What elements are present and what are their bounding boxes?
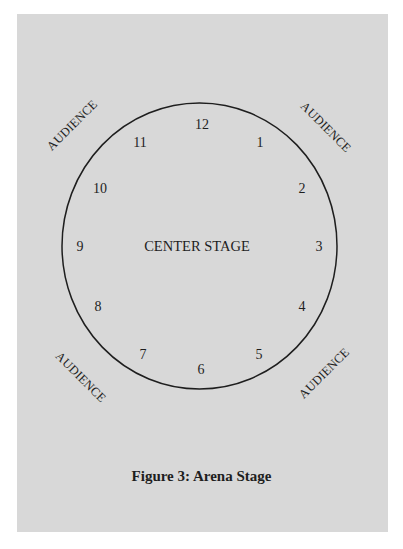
position-9: 9: [77, 239, 84, 254]
position-8: 8: [95, 299, 102, 314]
position-7: 7: [140, 347, 147, 362]
audience-top-right: AUDIENCE: [298, 99, 354, 155]
arena-stage-diagram: CENTER STAGE 12 1 2 3 4 5 6 7 8 9 10 11 …: [0, 0, 403, 549]
position-4: 4: [299, 299, 306, 314]
audience-bottom-left: AUDIENCE: [53, 349, 109, 405]
figure-caption: Figure 3: Arena Stage: [0, 468, 403, 485]
position-3: 3: [316, 239, 323, 254]
position-11: 11: [133, 135, 146, 150]
position-12: 12: [195, 117, 209, 132]
position-2: 2: [299, 181, 306, 196]
audience-bottom-right: AUDIENCE: [296, 345, 352, 401]
position-5: 5: [256, 347, 263, 362]
position-10: 10: [93, 181, 107, 196]
center-stage-label: CENTER STAGE: [144, 238, 250, 254]
audience-top-left: AUDIENCE: [44, 97, 100, 153]
position-6: 6: [198, 362, 205, 377]
position-1: 1: [257, 135, 264, 150]
